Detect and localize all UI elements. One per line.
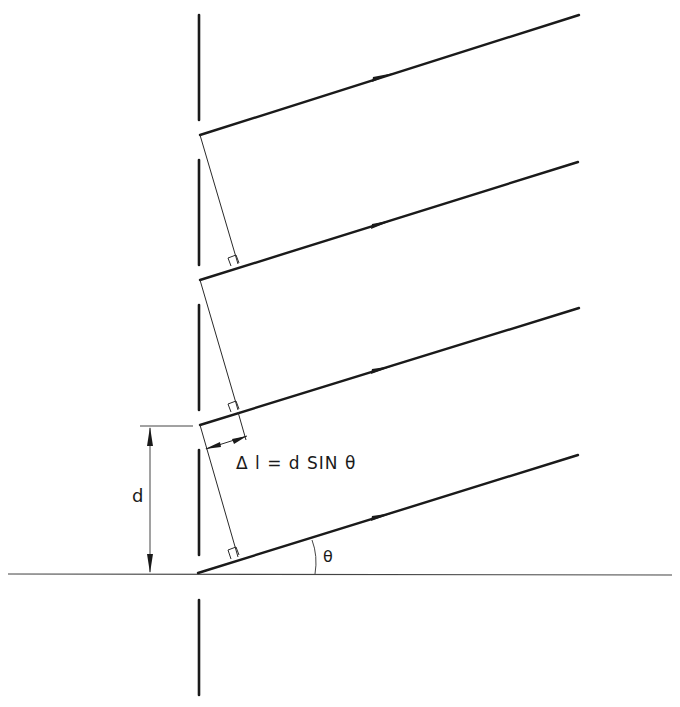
delta-l-extension — [238, 412, 246, 440]
ray-arrows — [371, 73, 394, 521]
spacing-label: d — [132, 485, 143, 506]
arrow-icon — [147, 427, 153, 446]
baseline — [8, 574, 672, 575]
perpendicular-line — [200, 280, 238, 410]
arrow-icon — [232, 436, 247, 444]
rays — [198, 15, 579, 573]
perpendicular-line — [200, 135, 238, 264]
theta-label: θ — [323, 547, 333, 566]
arrow-icon — [205, 442, 221, 449]
spacing-dimension — [140, 426, 193, 573]
arrow-icon — [147, 554, 153, 573]
theta-arc — [312, 540, 316, 574]
ray-1 — [200, 15, 579, 135]
perpendiculars — [200, 135, 238, 557]
diffraction-grating-diagram: Δ l = d SIN θ d θ — [0, 0, 680, 707]
path-difference-label: Δ l = d SIN θ — [236, 453, 356, 473]
